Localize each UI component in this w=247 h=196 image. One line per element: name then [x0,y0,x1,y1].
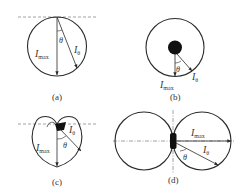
itheta-label: Iθ [202,144,209,156]
caption-a: (a) [52,92,62,102]
theta-label: θ [176,65,180,74]
caption-c: (c) [52,177,62,187]
itheta-label: Iθ [68,124,75,136]
theta-arc [57,30,62,31]
theta-label: θ [63,141,67,150]
imax-label: Imax [35,142,50,154]
theta-arc [175,61,181,63]
imax-label: Imax [159,79,174,91]
theta-arc [57,136,66,139]
inner-lobe [47,122,56,127]
theta-label: θ [59,36,63,45]
theta-label: θ [183,153,187,162]
caption-d: (d) [168,175,179,185]
panel-a: θ Imax Iθ (a) [18,17,97,102]
luminous-intensity-diagram: θ Imax Iθ (a) θ Imax Iθ (b) θ Imax Iθ (c… [0,0,247,196]
itheta-label: Iθ [191,71,198,83]
panel-c: θ Imax Iθ (c) [18,117,97,188]
caption-b: (b) [170,92,181,102]
itheta-label: Iθ [73,44,80,56]
point-source [168,41,182,55]
imax-label: Imax [34,48,49,60]
theta-arc [180,149,186,151]
linear-source [170,133,177,149]
panel-b: θ Imax Iθ (b) [146,19,204,103]
imax-label: Imax [190,127,205,139]
panel-d: θ Imax Iθ (d) [113,110,234,185]
